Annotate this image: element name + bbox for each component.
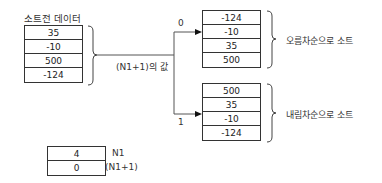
branch-1-condition: 1 (178, 117, 184, 127)
source-cell: -124 (25, 68, 82, 82)
ascending-cell: -124 (203, 11, 260, 25)
descending-cell: -10 (203, 112, 260, 126)
param-label-n1: N1 (112, 148, 124, 158)
source-table: 35 -10 500 -124 (24, 25, 83, 83)
param-value-n1-plus-1: 0 (48, 161, 105, 175)
ascending-cell: 500 (203, 53, 260, 67)
ascending-cell: 35 (203, 39, 260, 53)
ascending-cell: -10 (203, 25, 260, 39)
descending-brace (267, 84, 276, 142)
source-cell: -10 (25, 40, 82, 54)
source-cell: 500 (25, 54, 82, 68)
ascending-label: 오름차순으로 소트 (286, 34, 353, 47)
descending-cell: 35 (203, 98, 260, 112)
branch-0-arrow (195, 29, 202, 35)
ascending-table: -124 -10 35 500 (202, 10, 261, 68)
source-cell: 35 (25, 26, 82, 40)
param-label-n1-plus-1: (N1+1) (105, 162, 138, 172)
source-table-title: 소트전 데이터 (24, 11, 81, 25)
selector-label: (N1+1)의 값 (116, 60, 168, 73)
descending-cell: -124 (203, 126, 260, 140)
descending-label: 내림차순으로 소트 (286, 108, 353, 121)
ascending-brace (267, 11, 276, 68)
params-table: 4 0 (47, 146, 106, 176)
branch-0-condition: 0 (178, 18, 184, 28)
branch-1-arrow (195, 111, 202, 117)
descending-table: 500 35 -10 -124 (202, 83, 261, 141)
source-brace (88, 26, 97, 85)
param-value-n1: 4 (48, 147, 105, 161)
descending-cell: 500 (203, 84, 260, 98)
